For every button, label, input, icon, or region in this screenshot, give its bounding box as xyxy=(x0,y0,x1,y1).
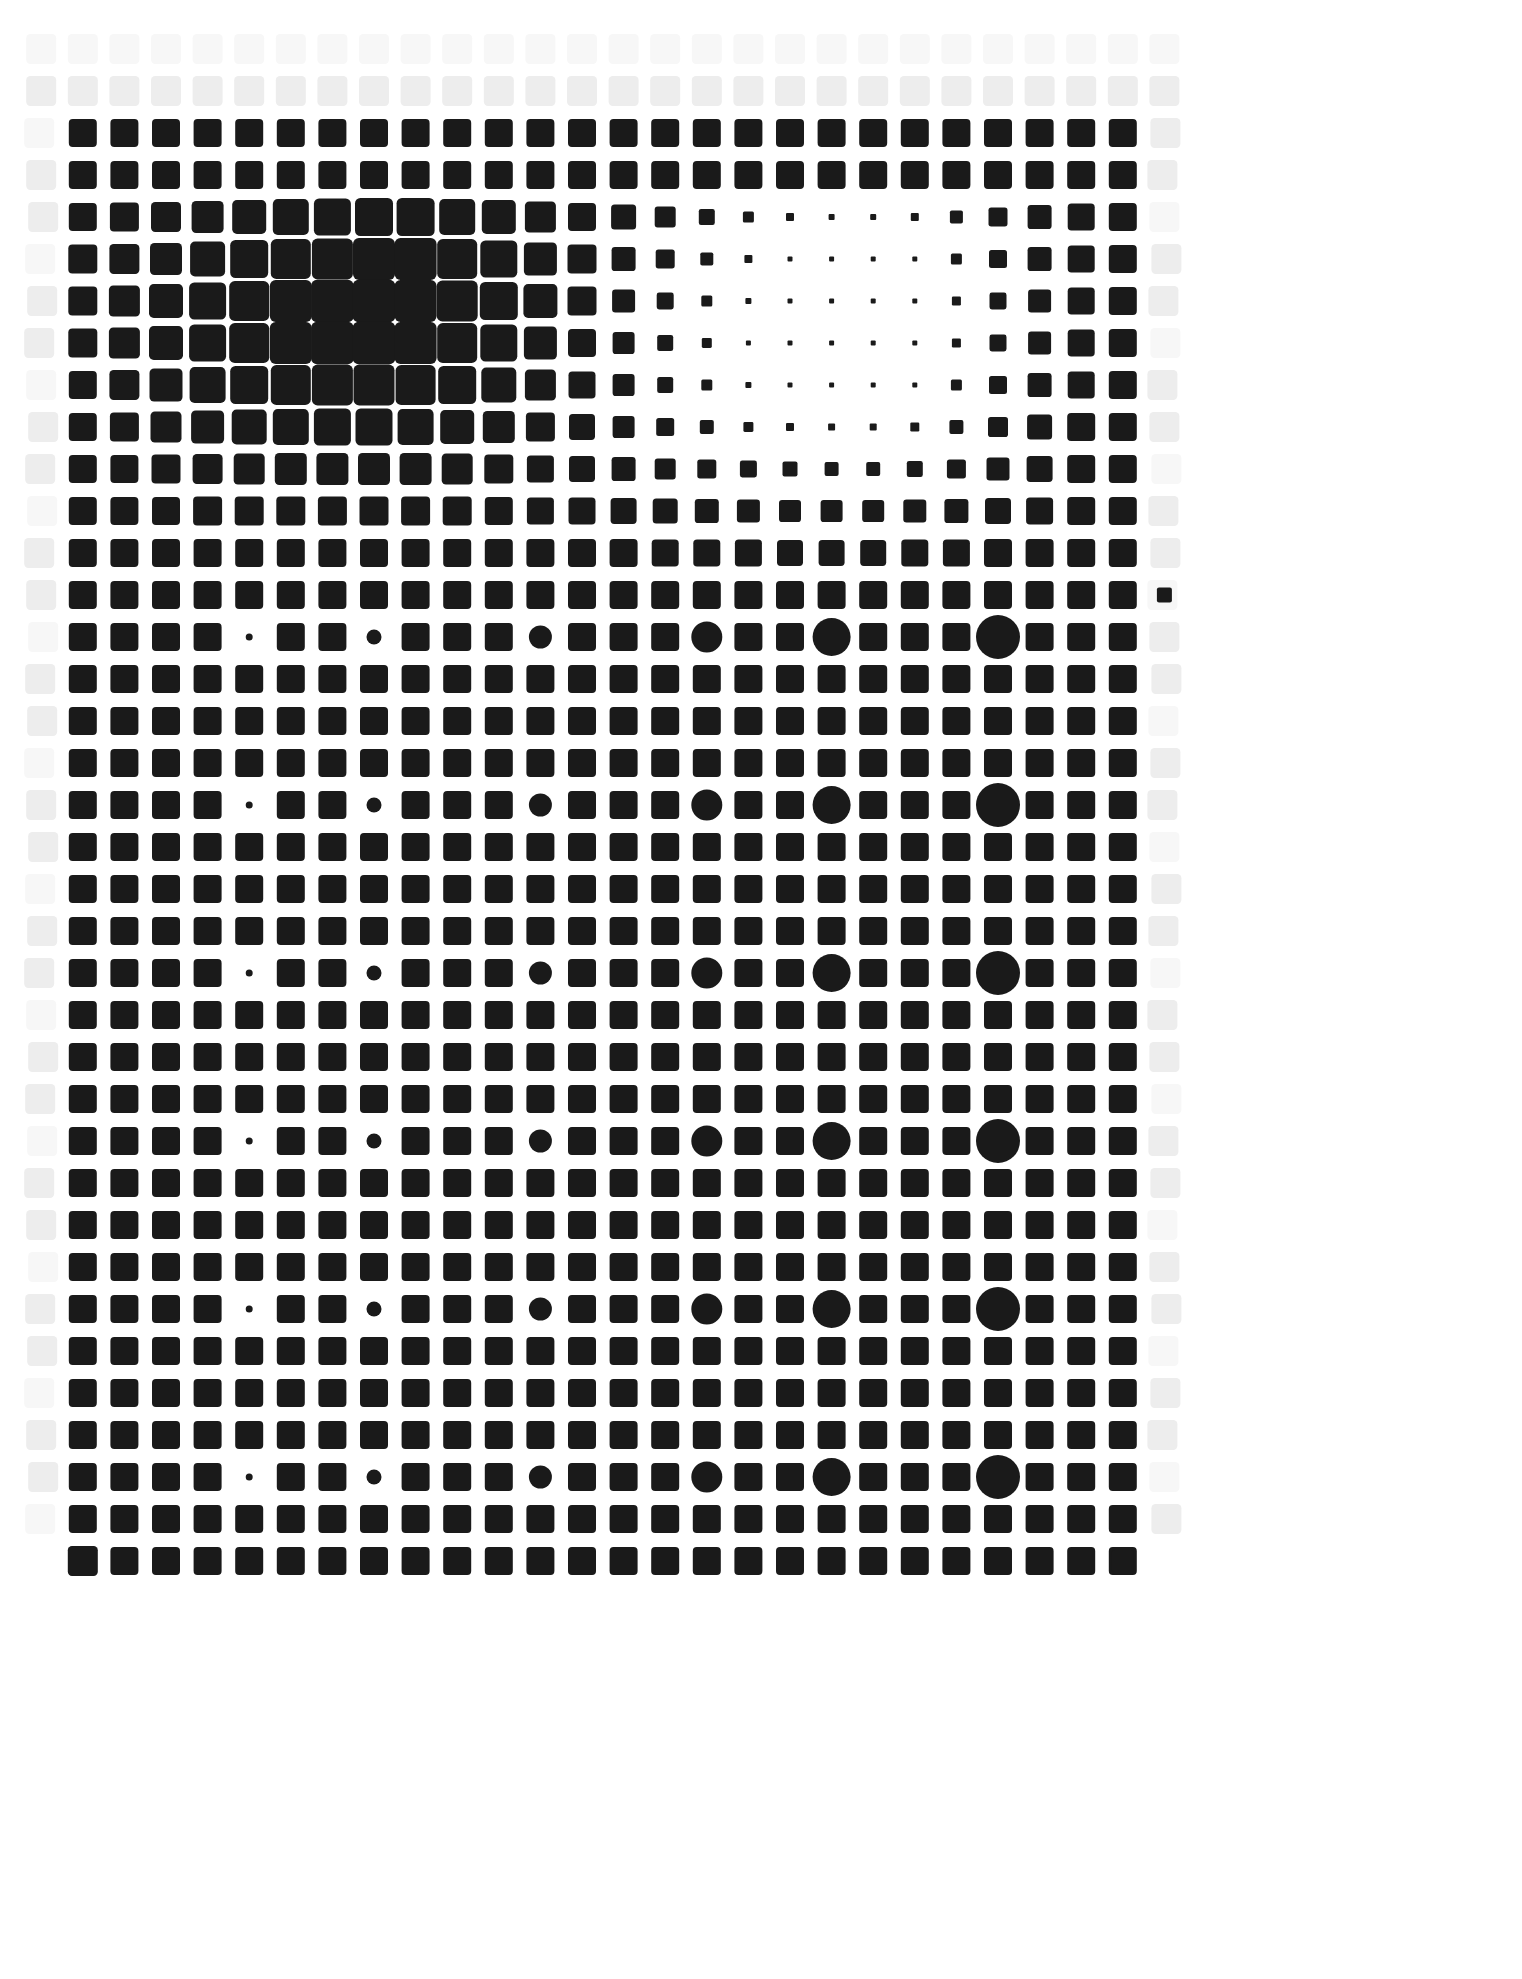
grid-square xyxy=(69,917,97,945)
grid-square xyxy=(734,707,762,735)
grid-square xyxy=(984,1547,1012,1575)
grid-square xyxy=(353,280,396,323)
grid-square xyxy=(194,833,222,861)
grid-square xyxy=(1067,413,1095,441)
grid-square xyxy=(402,161,430,189)
grid-square xyxy=(356,409,393,446)
frame-tile xyxy=(24,538,54,568)
frame-tile xyxy=(1149,832,1179,862)
grid-square xyxy=(610,1043,638,1071)
grid-square xyxy=(568,539,596,567)
grid-square xyxy=(400,453,432,485)
grid-square xyxy=(984,539,1012,567)
grid-square xyxy=(901,623,929,651)
grid-square xyxy=(568,833,596,861)
grid-square xyxy=(481,368,516,403)
grid-square xyxy=(701,296,712,307)
grid-square xyxy=(693,119,721,147)
grid-square xyxy=(360,833,388,861)
grid-square xyxy=(194,791,222,819)
grid-square xyxy=(693,707,721,735)
grid-square xyxy=(526,1253,554,1281)
grid-square xyxy=(942,1211,970,1239)
grid-square xyxy=(152,1211,180,1239)
grid-square xyxy=(693,1547,721,1575)
grid-square xyxy=(984,833,1012,861)
grid-square xyxy=(318,791,346,819)
grid-square xyxy=(110,497,138,525)
grid-square xyxy=(776,833,804,861)
grid-square xyxy=(402,833,430,861)
frame-tile xyxy=(775,34,805,64)
grid-square xyxy=(656,418,674,436)
grid-square xyxy=(485,119,513,147)
grid-square xyxy=(776,749,804,777)
grid-square xyxy=(318,1337,346,1365)
grid-square xyxy=(569,456,595,482)
grid-square xyxy=(788,341,793,346)
grid-square xyxy=(152,1421,180,1449)
grid-square xyxy=(69,581,97,609)
grid-square xyxy=(318,833,346,861)
grid-square xyxy=(818,833,846,861)
grid-square xyxy=(942,1379,970,1407)
grid-square xyxy=(1067,581,1095,609)
grid-square xyxy=(569,372,596,399)
grid-square xyxy=(859,1379,887,1407)
grid-square xyxy=(318,1295,346,1323)
frame-tile xyxy=(1150,1168,1180,1198)
grid-square xyxy=(1028,205,1052,229)
paper-surface xyxy=(0,0,1522,1979)
grid-square xyxy=(651,161,679,189)
grid-square xyxy=(568,1085,596,1113)
grid-square xyxy=(193,497,222,526)
grid-square xyxy=(818,665,846,693)
grid-square xyxy=(1109,203,1137,231)
grid-square xyxy=(318,1127,346,1155)
grid-square xyxy=(69,455,97,483)
grid-square xyxy=(612,457,636,481)
grid-square xyxy=(651,1421,679,1449)
grid-square xyxy=(984,917,1012,945)
grid-square xyxy=(859,1463,887,1491)
grid-square xyxy=(402,623,430,651)
grid-square xyxy=(901,1421,929,1449)
grid-square xyxy=(318,1505,346,1533)
grid-square xyxy=(235,665,263,693)
grid-square xyxy=(69,1253,97,1281)
grid-square xyxy=(485,1085,513,1113)
grid-square xyxy=(152,119,180,147)
grid-square xyxy=(1109,1463,1137,1491)
grid-circle xyxy=(367,1302,382,1317)
frame-tile xyxy=(1149,1252,1179,1282)
grid-square xyxy=(985,498,1011,524)
grid-square xyxy=(235,833,263,861)
grid-square xyxy=(402,539,430,567)
grid-circle xyxy=(813,1290,851,1328)
grid-square xyxy=(610,1127,638,1155)
grid-square xyxy=(235,1547,263,1575)
grid-circle xyxy=(367,1470,382,1485)
grid-square xyxy=(942,1043,970,1071)
grid-square xyxy=(316,453,348,485)
grid-square xyxy=(734,1043,762,1071)
grid-square xyxy=(1067,1211,1095,1239)
grid-square xyxy=(527,456,554,483)
grid-square xyxy=(485,1169,513,1197)
grid-square xyxy=(194,1211,222,1239)
grid-square xyxy=(1109,413,1137,441)
grid-square xyxy=(651,1547,679,1575)
frame-tile xyxy=(151,76,181,106)
grid-square xyxy=(194,1379,222,1407)
grid-square xyxy=(1067,791,1095,819)
grid-square xyxy=(276,497,305,526)
grid-square xyxy=(527,498,554,525)
grid-square xyxy=(69,1379,97,1407)
grid-square xyxy=(69,1295,97,1323)
grid-square xyxy=(871,299,876,304)
grid-square xyxy=(984,1505,1012,1533)
grid-square xyxy=(818,119,846,147)
grid-square xyxy=(235,1337,263,1365)
grid-square xyxy=(776,1043,804,1071)
grid-square xyxy=(485,833,513,861)
